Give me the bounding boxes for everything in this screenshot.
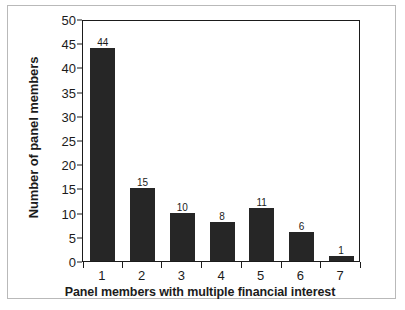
y-axis-tick-label: 10 bbox=[48, 206, 76, 221]
bar bbox=[170, 213, 195, 261]
y-axis-title: Number of panel members bbox=[26, 23, 41, 253]
figure: Number of panel members 0510152025303540… bbox=[0, 0, 405, 310]
bar-value-label: 1 bbox=[321, 245, 361, 256]
bar bbox=[130, 188, 155, 261]
bar-value-label: 44 bbox=[83, 37, 123, 48]
y-axis-tick-label: 45 bbox=[48, 37, 76, 52]
y-axis-tick-label: 25 bbox=[48, 134, 76, 149]
y-axis-tick-label: 5 bbox=[48, 230, 76, 245]
bars-container: 44151081161 bbox=[83, 21, 359, 261]
bar bbox=[210, 222, 235, 261]
y-axis-tick-label: 35 bbox=[48, 85, 76, 100]
bar-value-label: 10 bbox=[162, 202, 202, 213]
x-axis-tick-label: 3 bbox=[178, 268, 185, 283]
plot-area: 44151081161 bbox=[82, 20, 360, 262]
y-axis-tick-label: 15 bbox=[48, 182, 76, 197]
y-axis-tick-label: 40 bbox=[48, 61, 76, 76]
y-axis-tick-labels: 05101520253035404550 bbox=[48, 20, 76, 262]
bar-value-label: 11 bbox=[242, 197, 282, 208]
x-axis-tick-label: 2 bbox=[138, 268, 145, 283]
y-axis-tick-label: 0 bbox=[48, 255, 76, 270]
x-axis-tick-labels: 1234567 bbox=[82, 268, 360, 286]
bar bbox=[289, 232, 314, 261]
x-axis-tick-label: 5 bbox=[257, 268, 264, 283]
x-axis-title: Panel members with multiple financial in… bbox=[20, 285, 380, 299]
x-axis-tick-label: 6 bbox=[297, 268, 304, 283]
x-axis-tick-label: 4 bbox=[217, 268, 224, 283]
y-axis-tick-label: 50 bbox=[48, 13, 76, 28]
x-axis-tick-label: 1 bbox=[98, 268, 105, 283]
bar bbox=[329, 256, 354, 261]
bar-value-label: 15 bbox=[123, 177, 163, 188]
bar-value-label: 8 bbox=[202, 211, 242, 222]
y-axis-tick-label: 30 bbox=[48, 109, 76, 124]
bar-value-label: 6 bbox=[281, 221, 321, 232]
bar bbox=[90, 48, 115, 261]
y-axis-tick-label: 20 bbox=[48, 158, 76, 173]
x-axis-tick-label: 7 bbox=[337, 268, 344, 283]
bar bbox=[249, 208, 274, 261]
